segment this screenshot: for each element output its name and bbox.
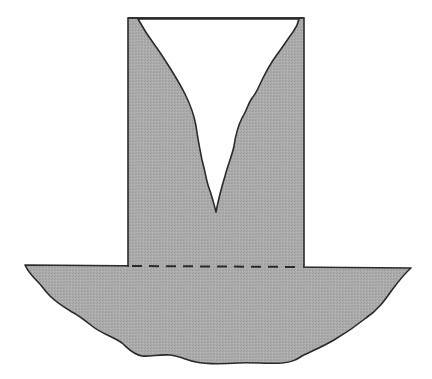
base-shape xyxy=(25,265,411,364)
diagram-canvas xyxy=(0,0,432,379)
